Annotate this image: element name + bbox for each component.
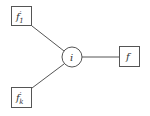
node-i: i [62, 47, 82, 67]
node-fk-prime: f′k [12, 88, 32, 108]
edge-f1-to-i [32, 26, 64, 51]
node-f1-prime: f′1 [12, 7, 32, 26]
node-f: f [120, 47, 140, 67]
node-label: i [70, 52, 73, 63]
edge-fk-to-i [32, 64, 64, 88]
factor-graph-diagram: f′1 f′k i f [0, 0, 150, 116]
